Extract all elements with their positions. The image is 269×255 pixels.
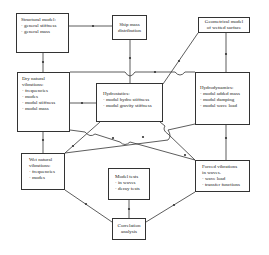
ship-mass-box: Ship mass distribution (112, 15, 147, 40)
forced-vibrations-box: Forced vibrations in waves. · wave load … (195, 160, 250, 192)
hydrodynamics-box: Hydrodynamics: · modal added mass · moda… (195, 72, 250, 125)
forced-vibrations-item: · transfer functions (202, 182, 245, 188)
hydrodynamics-item: · modal wave load (200, 103, 245, 109)
model-tests-box: Model tests · in waves · decay tests (108, 168, 150, 200)
model-tests-item: · decay tests (115, 186, 145, 192)
correlation-title-2: analysis (115, 229, 143, 235)
ship-mass-title-2: distribution (115, 28, 144, 34)
dry-natural-vibrations-box: Dry natural vibrations: · frequencies · … (17, 72, 70, 132)
correlation-analysis-box: Correlation analysis (112, 218, 146, 240)
wet-natural-vibrations-box: Wet natural vibrations: · frequencies · … (21, 153, 65, 190)
geometrical-model-title-2: of wetted surface (201, 25, 247, 31)
geometrical-model-box: Geometrical model of wetted surface (198, 17, 250, 33)
structural-model-item: · general mass (21, 29, 64, 35)
dry-natural-item: · modal mass (22, 106, 65, 112)
wet-natural-item: · modes (29, 175, 60, 181)
hydrostatics-box: Hydrostatics: · modal hydro stiffness · … (96, 83, 163, 122)
hydrostatics-item: · modal gravity stiffness (103, 103, 158, 109)
structural-model-box: Structural model: · general stiffness · … (16, 13, 69, 53)
